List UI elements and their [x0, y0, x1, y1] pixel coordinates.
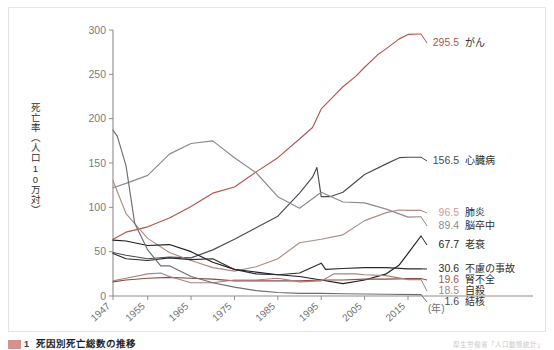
series-line-1 [113, 157, 421, 259]
caption-source: 厚生労働省「人口動態統計」 [453, 339, 544, 350]
series-name-label: 肺炎 [465, 207, 485, 218]
series-name-label: 不慮の事故 [465, 262, 515, 274]
series-line-0 [113, 34, 421, 239]
x-axis-ticks: 19471955196519751985199520052015 [88, 296, 408, 323]
x-axis-unit-label: (年) [428, 302, 445, 314]
series-value-label: 295.5 [433, 36, 459, 48]
x-tick-label: 1985 [253, 300, 277, 323]
series-line-4 [113, 236, 421, 284]
y-tick-label: 250 [88, 68, 106, 80]
series-value-label: 67.7 [439, 238, 460, 250]
series-leader-line-6 [421, 279, 427, 280]
series-line-3 [113, 141, 421, 217]
caption-tag-box [8, 340, 21, 349]
y-tick-label: 300 [88, 24, 106, 36]
series-value-label: 89.4 [439, 219, 460, 231]
x-tick-label: 1965 [167, 300, 191, 323]
x-tick-label: 1947 [88, 300, 112, 323]
y-tick-label: 50 [94, 245, 106, 257]
series-name-label: 心臓病 [465, 154, 495, 166]
series-name-label: 腎不全 [465, 273, 495, 285]
y-axis-ticks: 050100150200250300 [88, 24, 113, 302]
series-leader-line-3 [421, 217, 427, 226]
series-value-label: 96.5 [439, 206, 460, 218]
series-line-8 [113, 130, 421, 294]
line-chart: 050100150200250300 194719551965197519851… [9, 8, 545, 331]
x-tick-label: 2015 [383, 300, 407, 323]
y-tick-label: 0 [100, 290, 106, 302]
series-name-label: 老衰 [465, 238, 485, 250]
series-name-label: 自殺 [465, 284, 485, 296]
caption-number: 1 [24, 338, 29, 350]
series-name-label: 結核 [465, 295, 485, 307]
series-leader-line-7 [421, 280, 427, 291]
figure-caption: 1 死因別死亡総数の推移 厚生労働省「人口動態統計」 [8, 338, 546, 350]
series-leader-line-2 [421, 210, 427, 213]
x-tick-label: 1995 [297, 300, 321, 323]
chart-series-group [113, 34, 421, 295]
x-tick-label: 1955 [123, 300, 147, 323]
x-tick-label: 1975 [210, 300, 234, 323]
caption-title: 死因別死亡総数の推移 [36, 338, 136, 350]
series-leader-line-4 [421, 236, 427, 245]
y-axis-title: 死亡率（人口10万対） [27, 103, 41, 215]
figure-root: 050100150200250300 194719551965197519851… [0, 0, 554, 350]
y-tick-label: 200 [88, 112, 106, 124]
series-name-label: 脳卒中 [465, 219, 495, 231]
series-name-label: がん [465, 36, 485, 48]
chart-frame: 050100150200250300 194719551965197519851… [8, 7, 546, 332]
series-leader-line-0 [421, 34, 427, 43]
x-tick-label: 2005 [340, 300, 364, 323]
y-tick-label: 150 [88, 157, 106, 169]
series-value-label: 156.5 [433, 154, 459, 166]
chart-series-labels: 295.5がん156.5心臓病96.5肺炎89.4脳卒中67.7老衰30.6不慮… [421, 34, 515, 307]
y-tick-label: 100 [88, 201, 106, 213]
series-leader-line-1 [421, 157, 427, 161]
series-value-label: 1.6 [444, 295, 459, 307]
